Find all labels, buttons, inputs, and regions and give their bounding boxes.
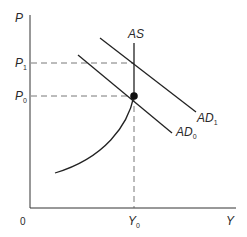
y0-label: Y0 — [128, 214, 140, 229]
as-curve — [55, 96, 134, 173]
ad0-label: AD0 — [175, 125, 197, 140]
ad-as-diagram: P Y 0 P1 P0 Y0 AS AD1 AD0 — [0, 0, 247, 237]
ad1-label: AD1 — [196, 111, 218, 126]
p0-label: P0 — [15, 89, 27, 104]
equilibrium-point — [130, 92, 138, 100]
y-axis-label: P — [15, 11, 23, 25]
origin-label: 0 — [20, 216, 26, 227]
as-label: AS — [127, 27, 144, 41]
ad1-curve — [100, 38, 196, 112]
x-axis-label: Y — [226, 214, 235, 228]
p1-label: P1 — [15, 56, 27, 71]
